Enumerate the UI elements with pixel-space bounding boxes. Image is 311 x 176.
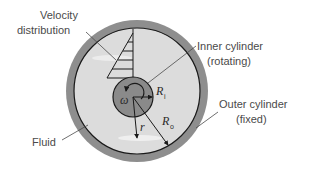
fluid-highlight (118, 135, 162, 141)
velocity-label-2: distribution (17, 24, 70, 36)
fluid-label: Fluid (32, 136, 56, 148)
velocity-label-1: Velocity (40, 9, 78, 21)
outer-label-2: (fixed) (236, 113, 267, 125)
inner-label-1: Inner cylinder (197, 40, 263, 52)
viscometer-diagram: ω r R i R o Velocity distribution Inner … (0, 0, 311, 176)
ri-symbol: R (155, 84, 164, 98)
r-symbol: r (140, 120, 145, 134)
outer-label-1: Outer cylinder (219, 98, 288, 110)
ro-subscript: o (170, 123, 174, 130)
ro-symbol: R (161, 114, 170, 128)
omega-symbol: ω (120, 93, 128, 107)
inner-label-2: (rotating) (207, 55, 251, 67)
